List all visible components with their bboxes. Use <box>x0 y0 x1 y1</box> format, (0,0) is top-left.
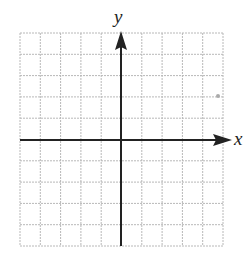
x-axis-label: x <box>234 129 242 148</box>
y-axis-label: y <box>114 7 122 26</box>
coordinate-plane <box>0 0 252 260</box>
scan-artifact <box>216 94 220 98</box>
